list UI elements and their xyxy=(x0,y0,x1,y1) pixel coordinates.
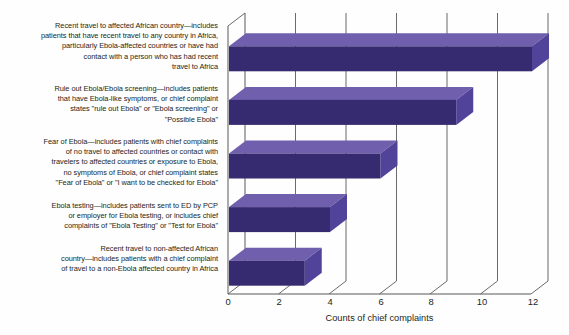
tick-connector-8 xyxy=(430,281,447,294)
tick-connector-6 xyxy=(380,281,397,294)
x-tick-8: 8 xyxy=(421,296,441,307)
x-tick-2: 2 xyxy=(269,296,289,307)
bar-front-face-0 xyxy=(229,46,532,71)
bar-chart: Recent travel to affected African countr… xyxy=(0,0,569,335)
x-tick-12: 12 xyxy=(523,296,543,307)
plot-area xyxy=(0,0,569,335)
bar-4 xyxy=(229,248,322,286)
bar-top-face-3 xyxy=(229,194,347,207)
bar-front-face-4 xyxy=(229,261,305,286)
bar-3 xyxy=(229,194,347,232)
bar-top-face-1 xyxy=(229,87,473,100)
bar-front-face-2 xyxy=(229,154,381,179)
bar-top-face-0 xyxy=(229,33,549,46)
x-tick-0: 0 xyxy=(218,296,238,307)
bar-front-face-3 xyxy=(229,207,330,232)
tick-connector-12 xyxy=(531,281,548,294)
bar-front-face-1 xyxy=(229,100,456,125)
x-tick-6: 6 xyxy=(371,296,391,307)
tick-connector-4 xyxy=(329,281,346,294)
x-tick-10: 10 xyxy=(472,296,492,307)
bar-0 xyxy=(229,33,549,71)
x-axis-title: Counts of chief complaints xyxy=(228,313,531,323)
bar-top-face-2 xyxy=(229,141,398,154)
x-tick-4: 4 xyxy=(320,296,340,307)
bar-1 xyxy=(229,87,473,125)
bar-2 xyxy=(229,141,398,179)
tick-connector-10 xyxy=(481,281,498,294)
y-axis-corner-connector xyxy=(228,13,245,26)
plot-svg xyxy=(0,0,569,335)
